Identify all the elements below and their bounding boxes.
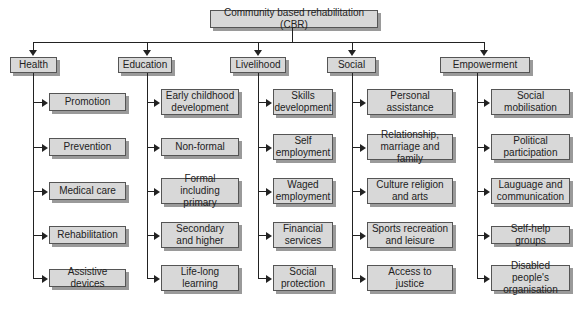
child-node: Prevention	[49, 138, 126, 156]
arrow-right-icon	[42, 275, 48, 283]
arrow-right-icon	[154, 99, 160, 107]
arrow-right-icon	[266, 188, 272, 196]
category-label: Social	[338, 59, 365, 71]
arrow-right-icon	[360, 275, 366, 283]
child-node: Social protection	[273, 265, 333, 291]
child-label: Waged employment	[276, 179, 330, 203]
arrow-right-icon	[360, 188, 366, 196]
arrow-down-icon	[29, 50, 37, 56]
arrow-right-icon	[266, 144, 272, 152]
child-node: Promotion	[49, 93, 126, 111]
child-label: Formal including primary	[165, 173, 235, 209]
category-social: Social	[327, 57, 376, 73]
arrow-right-icon	[360, 232, 366, 240]
child-node: Lauguage and communication	[491, 178, 570, 204]
arrow-down-icon	[348, 50, 356, 56]
child-node: Self employment	[273, 134, 333, 160]
category-label: Education	[123, 59, 167, 71]
category-label: Empowerment	[453, 59, 517, 71]
child-node: Medical care	[49, 182, 126, 200]
arrow-right-icon	[154, 144, 160, 152]
category-label: Livelihood	[235, 59, 280, 71]
child-node: Access to justice	[367, 265, 453, 291]
child-label: Skills development	[274, 90, 331, 114]
category-label: Health	[19, 59, 48, 71]
arrow-right-icon	[484, 99, 490, 107]
child-label: Medical care	[59, 185, 116, 197]
spine-empowerment	[477, 73, 478, 278]
spine-social	[352, 73, 353, 278]
child-label: Early childhood development	[166, 90, 234, 114]
category-livelihood: Livelihood	[230, 57, 286, 73]
child-node: Life-long learning	[161, 265, 239, 291]
child-label: Disabled people's organisation	[495, 260, 566, 296]
arrow-right-icon	[42, 99, 48, 107]
child-node: Secondary and higher	[161, 222, 239, 248]
child-label: Social mobilisation	[504, 90, 557, 114]
child-node: Formal including primary	[161, 178, 239, 204]
child-node: Relationship, marriage and family	[367, 134, 453, 160]
root-connector	[292, 28, 293, 42]
arrow-right-icon	[360, 144, 366, 152]
child-label: Access to justice	[388, 266, 431, 290]
arrow-right-icon	[484, 232, 490, 240]
spine-livelihood	[258, 73, 259, 278]
child-node: Skills development	[273, 89, 333, 115]
arrow-down-icon	[254, 50, 262, 56]
child-label: Self-help groups	[495, 223, 566, 247]
child-node: Rehabilitation	[49, 226, 126, 244]
child-label: Prevention	[64, 141, 112, 153]
category-bus	[33, 42, 485, 43]
child-label: Self employment	[276, 135, 330, 159]
child-label: Rehabilitation	[57, 229, 118, 241]
child-label: Life-long learning	[181, 266, 219, 290]
child-label: Sports recreation and leisure	[372, 223, 448, 247]
spine-health	[33, 73, 34, 278]
spine-education	[147, 73, 148, 278]
arrow-right-icon	[484, 144, 490, 152]
child-node: Waged employment	[273, 178, 333, 204]
child-node: Self-help groups	[491, 226, 570, 244]
child-node: Culture religion and arts	[367, 178, 453, 204]
root-label: Community based rehabilitation (CBR)	[214, 7, 374, 31]
child-label: Assistive devices	[53, 266, 122, 290]
child-label: Culture religion and arts	[376, 179, 443, 203]
arrow-right-icon	[266, 275, 272, 283]
arrow-right-icon	[266, 232, 272, 240]
child-label: Financial services	[283, 223, 323, 247]
child-node: Social mobilisation	[491, 89, 570, 115]
arrow-right-icon	[154, 275, 160, 283]
child-node: Financial services	[273, 222, 333, 248]
child-node: Sports recreation and leisure	[367, 222, 453, 248]
child-label: Promotion	[65, 96, 111, 108]
arrow-right-icon	[42, 188, 48, 196]
arrow-right-icon	[360, 99, 366, 107]
category-health: Health	[10, 57, 57, 73]
child-label: Social protection	[281, 266, 325, 290]
child-label: Relationship, marriage and family	[371, 129, 449, 165]
arrow-right-icon	[484, 188, 490, 196]
category-empowerment: Empowerment	[440, 57, 530, 73]
child-node: Non-formal	[161, 138, 239, 156]
arrow-right-icon	[154, 188, 160, 196]
child-node: Early childhood development	[161, 89, 239, 115]
root-node-cbr: Community based rehabilitation (CBR)	[210, 10, 378, 28]
child-node: Disabled people's organisation	[491, 265, 570, 291]
child-label: Political participation	[504, 135, 558, 159]
arrow-right-icon	[484, 275, 490, 283]
arrow-right-icon	[42, 232, 48, 240]
arrow-right-icon	[266, 99, 272, 107]
category-education: Education	[118, 57, 172, 73]
arrow-down-icon	[480, 50, 488, 56]
child-label: Secondary and higher	[176, 223, 224, 247]
child-node: Political participation	[491, 134, 570, 160]
child-node: Personal assistance	[367, 89, 453, 115]
arrow-right-icon	[42, 144, 48, 152]
arrow-down-icon	[143, 50, 151, 56]
arrow-right-icon	[154, 232, 160, 240]
child-node: Assistive devices	[49, 269, 126, 287]
child-label: Lauguage and communication	[497, 179, 564, 203]
child-label: Non-formal	[175, 141, 224, 153]
child-label: Personal assistance	[386, 90, 433, 114]
